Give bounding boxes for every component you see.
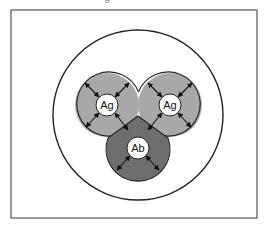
antigen-antibody-diagram: Ag Ag Ab [0, 0, 269, 229]
antigen-left-label: Ag [100, 99, 113, 111]
antibody-core: Ab [127, 137, 149, 159]
antigen-right-label: Ag [163, 99, 176, 111]
antigen-left-core: Ag [96, 94, 118, 116]
antigen-right-core: Ag [159, 94, 181, 116]
antibody-label: Ab [131, 142, 144, 154]
